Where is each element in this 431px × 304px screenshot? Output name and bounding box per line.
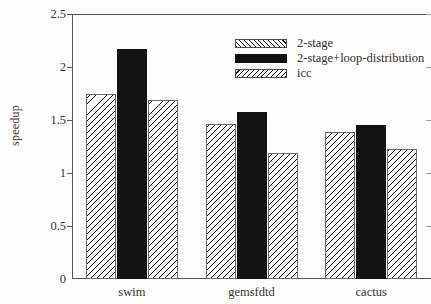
legend-label-2: icc bbox=[297, 66, 312, 81]
bar bbox=[325, 132, 355, 279]
y-axis-tick-label: 0.5 bbox=[32, 219, 66, 234]
x-axis-tick-label: gemsfdtd bbox=[228, 285, 275, 300]
legend-item-2: icc bbox=[235, 66, 431, 81]
bar bbox=[268, 153, 298, 279]
legend-label-1: 2-stage+loop-distribution bbox=[297, 51, 424, 66]
bar bbox=[356, 125, 386, 279]
chart-legend: 2-stage 2-stage+loop-distribution icc bbox=[235, 36, 431, 81]
legend-swatch-loop-distribution-icon bbox=[235, 54, 287, 63]
y-axis-tick-labels: 00.511.522.5 bbox=[26, 0, 66, 304]
y-axis-title: speedup bbox=[8, 81, 23, 171]
y-axis-tick-label: 1.5 bbox=[32, 113, 66, 128]
bar bbox=[117, 49, 147, 279]
legend-item-1: 2-stage+loop-distribution bbox=[235, 51, 431, 66]
y-axis-right-tick-mark bbox=[426, 14, 431, 15]
y-axis-tick-label: 1 bbox=[32, 166, 66, 181]
x-axis-tick-label: swim bbox=[118, 285, 145, 300]
legend-swatch-icc-icon bbox=[235, 69, 287, 78]
y-axis-tick-mark bbox=[67, 226, 73, 227]
bar bbox=[86, 94, 116, 280]
legend-item-0: 2-stage bbox=[235, 36, 431, 51]
speedup-bar-chart: speedup 00.511.522.5 2-stage 2-stage+loo… bbox=[0, 0, 431, 304]
y-axis-tick-label: 2.5 bbox=[32, 7, 66, 22]
bar bbox=[148, 100, 178, 279]
y-axis-tick-mark bbox=[67, 120, 73, 121]
y-axis-right-tick-mark bbox=[426, 173, 431, 174]
y-axis-right-tick-mark bbox=[426, 120, 431, 121]
legend-label-0: 2-stage bbox=[297, 36, 333, 51]
plot-area: 2-stage 2-stage+loop-distribution icc bbox=[72, 14, 431, 279]
legend-swatch-2-stage-icon bbox=[235, 39, 287, 48]
y-axis-tick-label: 0 bbox=[32, 272, 66, 287]
x-axis-tick-label: cactus bbox=[356, 285, 387, 300]
y-axis-tick-mark bbox=[67, 14, 73, 15]
bar bbox=[237, 112, 267, 279]
y-axis-tick-label: 2 bbox=[32, 60, 66, 75]
bar bbox=[387, 149, 417, 279]
y-axis-tick-mark bbox=[67, 67, 73, 68]
y-axis-right-tick-mark bbox=[426, 226, 431, 227]
bar bbox=[206, 124, 236, 279]
y-axis-tick-mark bbox=[67, 173, 73, 174]
